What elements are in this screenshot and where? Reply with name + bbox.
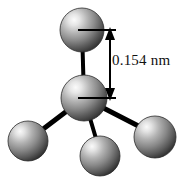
atom-lower-left — [8, 121, 48, 161]
molecule-diagram: 0.154 nm — [0, 0, 181, 177]
molecule-canvas — [0, 0, 181, 177]
atom-lower-middle — [80, 136, 120, 176]
atom-group — [8, 8, 176, 176]
atom-lower-right — [134, 116, 176, 158]
dimension-arrowhead-up — [105, 27, 115, 40]
dimension-label: 0.154 nm — [112, 52, 170, 68]
